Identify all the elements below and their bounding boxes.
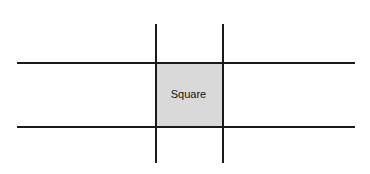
- horizontal-line-bottom: [17, 126, 355, 128]
- vertical-line-right: [222, 24, 224, 163]
- square-label: Square: [155, 62, 222, 126]
